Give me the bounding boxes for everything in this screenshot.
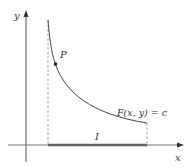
y-axis [24, 10, 29, 162]
curve-label: F(x, y) = c [116, 107, 168, 118]
point-p-label: P [59, 49, 67, 60]
diagram-canvas: y x P F(x, y) = c I [0, 0, 193, 168]
point-p [54, 62, 58, 66]
interval-label: I [94, 131, 100, 142]
y-axis-label: y [13, 10, 20, 21]
y-axis-arrow-icon [24, 10, 29, 17]
x-axis-label: x [175, 152, 181, 163]
x-axis-arrow-icon [177, 143, 184, 148]
